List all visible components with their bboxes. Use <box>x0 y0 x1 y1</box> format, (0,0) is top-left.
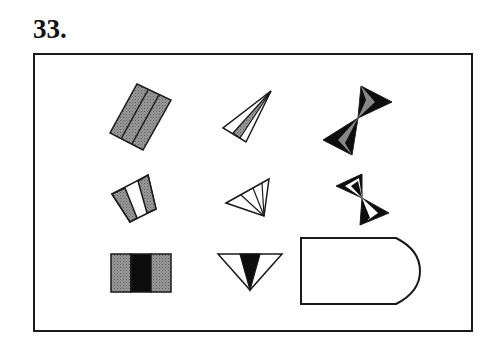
figure-r1c1-striped-rectangle <box>110 84 171 150</box>
figure-r3c2-inverted-triangle <box>218 254 282 290</box>
figure-r3c1-striped-rectangle <box>111 254 171 292</box>
figure-r1c2-triangle-fan <box>223 91 271 142</box>
figure-r2c2-triangle-fan <box>226 179 269 216</box>
puzzle-figures <box>0 0 499 351</box>
figure-r2c3-bowtie <box>336 174 389 225</box>
figure-r2c1-striped-rectangle <box>112 175 156 222</box>
answer-box[interactable] <box>301 238 420 304</box>
figure-r1c3-bowtie <box>323 86 392 155</box>
